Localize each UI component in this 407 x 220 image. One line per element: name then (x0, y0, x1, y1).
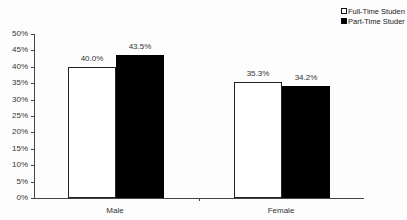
legend-swatch-part-time (341, 18, 347, 24)
y-tick-label: 45% (0, 45, 28, 54)
bar-male-full-time (68, 67, 116, 198)
category-label-male: Male (75, 206, 155, 215)
y-tick-label: 30% (0, 95, 28, 104)
y-tick-label: 0% (0, 193, 28, 202)
value-label: 34.2% (281, 73, 331, 82)
y-tick-label: 10% (0, 160, 28, 169)
value-label: 40.0% (67, 54, 117, 63)
legend-label: Full-Time Studen (348, 7, 405, 16)
y-tick-label: 35% (0, 78, 28, 87)
y-axis (34, 34, 35, 199)
y-tick-label: 40% (0, 62, 28, 71)
y-tick-label: 50% (0, 29, 28, 38)
y-tick-label: 25% (0, 111, 28, 120)
category-label-female: Female (241, 206, 321, 215)
bar-chart: Full-Time Studen Part-Time Studer 0%5%10… (0, 0, 407, 220)
y-tick-label: 20% (0, 127, 28, 136)
legend-item-part-time: Part-Time Studer (341, 16, 407, 26)
value-label: 35.3% (233, 69, 283, 78)
x-axis-tick (199, 198, 200, 201)
bar-female-part-time (282, 86, 330, 198)
y-tick-label: 5% (0, 177, 28, 186)
legend: Full-Time Studen Part-Time Studer (341, 6, 407, 26)
legend-swatch-full-time (341, 8, 347, 14)
legend-label: Part-Time Studer (348, 17, 405, 26)
y-tick-label: 15% (0, 144, 28, 153)
bar-male-part-time (116, 55, 164, 198)
value-label: 43.5% (115, 42, 165, 51)
legend-item-full-time: Full-Time Studen (341, 6, 407, 16)
bar-female-full-time (234, 82, 282, 198)
